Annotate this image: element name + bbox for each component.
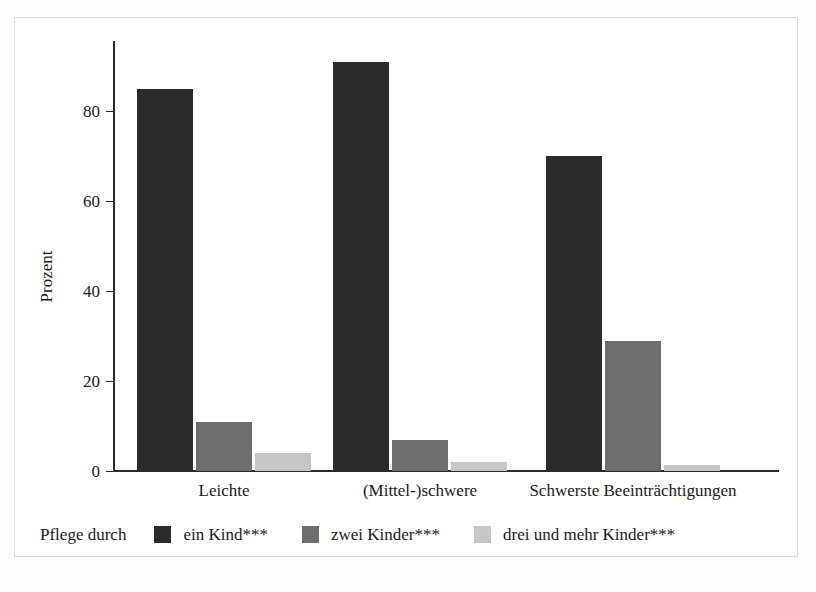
bar-2-2 <box>664 465 720 471</box>
bar-0-1 <box>333 62 389 472</box>
bar-1-1 <box>392 440 448 472</box>
plot-area: Prozent 020406080 Leichte(Mittel-)schwer… <box>0 0 816 592</box>
legend-items: ein Kind***zwei Kinder***drei und mehr K… <box>154 526 709 543</box>
bar-1-0 <box>196 422 252 472</box>
category-label-2: Schwerste Beeinträchtigungen <box>503 481 763 501</box>
bar-0-2 <box>546 156 602 471</box>
legend-label: drei und mehr Kinder*** <box>503 526 675 543</box>
bar-2-1 <box>451 462 507 471</box>
chart-figure: Prozent 020406080 Leichte(Mittel-)schwer… <box>0 0 816 592</box>
legend-item-2[interactable]: drei und mehr Kinder*** <box>474 526 675 543</box>
legend-item-0[interactable]: ein Kind*** <box>154 526 268 543</box>
legend-label: zwei Kinder*** <box>331 526 440 543</box>
bar-0-0 <box>137 89 193 472</box>
bar-2-0 <box>255 453 311 471</box>
legend-swatch-icon <box>474 526 491 543</box>
bar-1-2 <box>605 341 661 472</box>
legend-item-1[interactable]: zwei Kinder*** <box>302 526 440 543</box>
legend-swatch-icon <box>302 526 319 543</box>
legend-title: Pflege durch <box>40 526 126 543</box>
chart-legend: Pflege durch ein Kind***zwei Kinder***dr… <box>40 521 780 547</box>
legend-swatch-icon <box>154 526 171 543</box>
bars-layer <box>0 0 816 471</box>
legend-label: ein Kind*** <box>183 526 268 543</box>
y-axis-tick <box>106 471 114 472</box>
